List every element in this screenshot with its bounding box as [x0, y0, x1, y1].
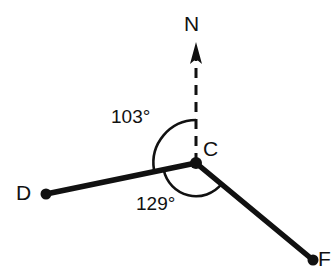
segment-cd: [46, 163, 196, 194]
diagram-canvas: [0, 0, 335, 278]
segment-cf: [196, 163, 313, 260]
angle-label-103: 103°: [111, 107, 150, 126]
point-label-c: C: [203, 138, 218, 159]
point-label-n: N: [184, 13, 199, 34]
bearing-diagram: N C D F 103° 129°: [0, 0, 335, 278]
point-label-f: F: [318, 248, 331, 269]
point-marker-c: [190, 157, 202, 169]
point-label-d: D: [16, 182, 31, 203]
angle-label-129: 129°: [136, 194, 175, 213]
point-marker-f: [308, 255, 319, 266]
point-marker-d: [41, 189, 52, 200]
